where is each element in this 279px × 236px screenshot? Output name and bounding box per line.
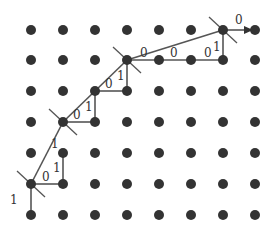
lattice-dot [154, 55, 164, 65]
lattice-dot [186, 117, 196, 127]
lattice-dot [154, 117, 164, 127]
lattice-dot [122, 86, 132, 96]
lattice-dot [26, 86, 36, 96]
lattice-dot [186, 86, 196, 96]
edge-label: 1 [117, 69, 125, 83]
lattice-dot [218, 25, 228, 35]
edge-label: 1 [213, 40, 221, 54]
lattice-dot [90, 117, 100, 127]
edge-label: 1 [85, 100, 93, 114]
lattice-dot [154, 210, 164, 220]
lattice-dot [250, 25, 260, 35]
lattice-dot [218, 179, 228, 189]
lattice-dot [186, 179, 196, 189]
lattice-dot [58, 55, 68, 65]
edge-label: 0 [73, 108, 81, 122]
edge-label: 0 [170, 46, 178, 60]
lattice-dot [186, 210, 196, 220]
lattice-dot [58, 86, 68, 96]
lattice-dot [154, 179, 164, 189]
edge-label: 1 [53, 161, 61, 175]
lattice-dot [122, 148, 132, 158]
lattice-dot [90, 86, 100, 96]
lattice-dot [250, 179, 260, 189]
lattice-dot [186, 148, 196, 158]
lattice-dot [250, 148, 260, 158]
edge-label: 1 [51, 137, 59, 151]
lattice-dot [90, 55, 100, 65]
lattice-dot [154, 148, 164, 158]
lattice-dot [58, 179, 68, 189]
lattice-dot [250, 210, 260, 220]
lattice-dot [58, 210, 68, 220]
lattice-dot [122, 117, 132, 127]
lattice-dot [218, 55, 228, 65]
lattice-dot [58, 148, 68, 158]
lattice-dot [90, 210, 100, 220]
lattice-dot [58, 117, 68, 127]
edge-label: 0 [42, 170, 50, 184]
lattice-dot [122, 179, 132, 189]
arrow-label: 0 [235, 13, 243, 27]
lattice-dot [250, 55, 260, 65]
edge-label: 0 [204, 46, 212, 60]
edge-label: 0 [105, 77, 113, 91]
lattice-dot [90, 25, 100, 35]
lattice-dot [26, 179, 36, 189]
lattice-dot [90, 148, 100, 158]
lattice-dot [218, 210, 228, 220]
lattice-dot [26, 25, 36, 35]
lattice-dot [218, 86, 228, 96]
edge-label: 1 [10, 193, 18, 207]
lattice-dot [218, 117, 228, 127]
lattice-dot [218, 148, 228, 158]
lattice-dot [26, 117, 36, 127]
lattice-dot [26, 148, 36, 158]
lattice-dot [122, 55, 132, 65]
lattice-dot [186, 55, 196, 65]
lattice-dot [186, 25, 196, 35]
lattice-dot [250, 117, 260, 127]
lattice-dot [154, 25, 164, 35]
lattice-dot [250, 86, 260, 96]
lattice-dot [26, 210, 36, 220]
lattice-dot [58, 25, 68, 35]
lattice-dot [154, 86, 164, 96]
lattice-dot [122, 210, 132, 220]
edge-label: 0 [140, 46, 148, 60]
lattice-dot [90, 179, 100, 189]
lattice-dot [26, 55, 36, 65]
lattice-path-diagram: 1011101010000 [0, 0, 279, 236]
lattice-dot [122, 25, 132, 35]
